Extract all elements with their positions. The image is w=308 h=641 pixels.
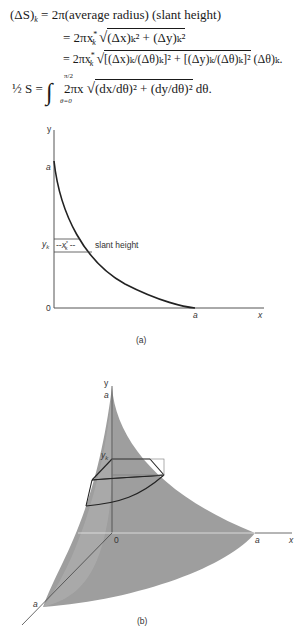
caption-a: (a) [136,335,147,345]
origin-label-b: 0 [114,535,119,545]
x-axis-label: x [257,310,263,320]
y-axis-label-b: y [104,378,109,388]
radicand: [(Δx)ₖ/(Δθ)ₖ]² + [(Δy)ₖ/(Δθ)ₖ]² [104,50,250,66]
slant-height-label: slant height [95,240,139,250]
a-label-top: a [104,390,109,400]
a-label-y: a [46,162,51,172]
astroid-curve [54,161,195,308]
figure-b: y a yk 0 a x a (b) [0,376,308,641]
a-label-x: a [193,310,198,320]
integral-sign: ∫ [46,79,53,105]
y-axis-label: y [47,124,52,134]
delta-s-rhs: = 2π(average radius) (slant height) [41,7,221,22]
radicand: (dx/dθ)² + (dy/dθ)² [95,79,193,96]
equation-line-3: = 2πx*k √[(Δx)ₖ/(Δθ)ₖ]² + [(Δy)ₖ/(Δθ)ₖ]²… [63,52,282,68]
yk-label: yk [41,239,50,250]
a-label-front: a [33,599,38,609]
caption-b: (b) [137,616,148,626]
sqrt-symbol: √ [96,51,104,66]
a-label-right: a [255,535,260,545]
figure-a: y a yk --x*k -- slant height 0 a x (a) [0,120,308,400]
equation-line-1: (ΔS)k = 2π(average radius) (slant height… [10,8,221,24]
origin-label: 0 [46,303,51,313]
xk-label: --x*k -- [56,240,76,251]
sqrt-symbol: √ [87,80,95,96]
x-axis-label-b: x [288,535,294,545]
delta-s-lhs: (ΔS) [10,7,34,22]
sqrt-symbol: √ [99,29,107,45]
equation-line-4: ½ S = ∫ π/2 θ=0 2πx √(dx/dθ)² + (dy/dθ)²… [12,80,212,104]
radicand: (Δx)ₖ² + (Δy)ₖ² [107,28,185,45]
equation-line-2: = 2πx*k √(Δx)ₖ² + (Δy)ₖ² [63,30,185,47]
